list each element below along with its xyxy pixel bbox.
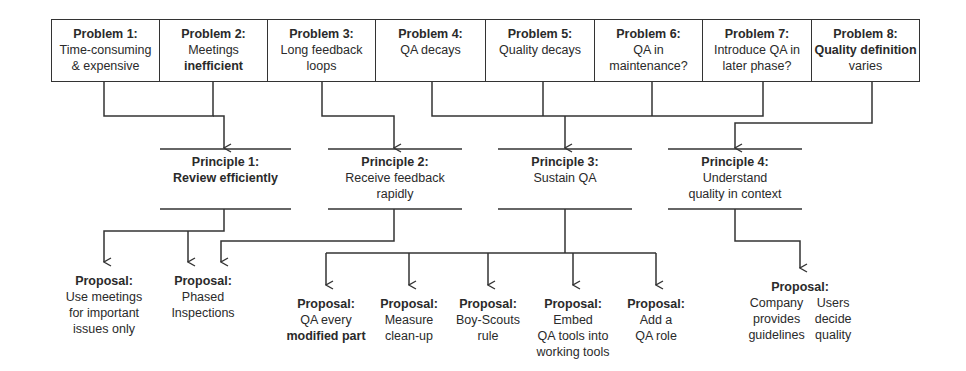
problem-text-bold: inefficient [160,58,267,74]
problem-text: QA in [595,42,702,58]
problem-text: loops [268,58,375,74]
problem-title: Problem 7: [703,26,811,42]
problem-title: Problem 5: [486,26,594,42]
proposal-text: Embed [528,312,618,328]
problem-text: varies [812,58,919,74]
problem-box-8: Problem 8: Quality definition varies [811,19,920,82]
problem-box-1: Problem 1: Time-consuming & expensive [51,19,160,82]
problem-title: Problem 4: [376,26,485,42]
principle-text: Understand [668,170,802,186]
proposal-title: Proposal: [618,296,694,312]
proposal-text: Company [748,295,804,311]
proposal-8: Proposal: Company provides guidelines Us… [736,279,864,343]
proposal-text: provides [748,311,804,327]
proposal-text: Phased [163,289,243,305]
proposal-text: Users [815,295,852,311]
problem-principle-proposal-diagram: Problem 1: Time-consuming & expensive Pr… [0,0,966,371]
problem-box-7: Problem 7: Introduce QA in later phase? [702,19,812,82]
principle-title: Principle 2: [328,154,462,170]
problem-box-5: Problem 5: Quality decays [485,19,595,82]
proposal-4: Proposal: Measure clean-up [369,296,449,344]
problem-title: Problem 6: [595,26,702,42]
principle-title: Principle 3: [498,154,632,170]
principle-text: Receive feedback [328,170,462,186]
proposal-text: working tools [528,344,618,360]
problem-text: Meetings [160,42,267,58]
proposal-title: Proposal: [284,296,368,312]
proposal-right-column: Users decide quality [815,295,852,343]
problem-box-4: Problem 4: QA decays [375,19,486,82]
proposal-text: issues only [64,321,144,337]
proposal-title: Proposal: [448,296,528,312]
proposal-title: Proposal: [64,273,144,289]
proposal-text: Add a [618,312,694,328]
problem-box-2: Problem 2: Meetings inefficient [159,19,268,82]
problem-text-bold: Quality definition [812,42,919,58]
problem-text: Quality decays [486,42,594,58]
proposal-text: Inspections [163,305,243,321]
problem-title: Problem 2: [160,26,267,42]
problem-title: Problem 1: [52,26,159,42]
problem-text: QA decays [376,42,485,58]
principle-title: Principle 1: [160,154,291,170]
principle-3: Principle 3: Sustain QA [498,154,632,186]
proposal-text: QA tools into [528,328,618,344]
problem-box-3: Problem 3: Long feedback loops [267,19,376,82]
principle-text: Review efficiently [160,170,291,186]
problem-title: Problem 3: [268,26,375,42]
problem-text: Long feedback [268,42,375,58]
problem-text: Time-consuming [52,42,159,58]
proposal-text: decide [815,311,852,327]
proposal-left-column: Company provides guidelines [748,295,804,343]
proposal-title: Proposal: [163,273,243,289]
principle-4: Principle 4: Understand quality in conte… [668,154,802,202]
proposal-1: Proposal: Use meetings for important iss… [64,273,144,337]
proposal-text: Measure [369,312,449,328]
principle-title: Principle 4: [668,154,802,170]
proposal-text-bold: modified part [284,328,368,344]
problem-text: maintenance? [595,58,702,74]
proposal-text: guidelines [748,327,804,343]
principle-text: quality in context [668,186,802,202]
proposal-title: Proposal: [528,296,618,312]
problem-title: Problem 8: [812,26,919,42]
problem-text: & expensive [52,58,159,74]
proposal-text: Use meetings [64,289,144,305]
proposal-text: QA role [618,328,694,344]
proposal-text: QA every [284,312,368,328]
proposal-text: quality [815,327,852,343]
proposal-text: for important [64,305,144,321]
principle-1: Principle 1: Review efficiently [160,154,291,186]
proposal-7: Proposal: Add a QA role [618,296,694,344]
proposal-6: Proposal: Embed QA tools into working to… [528,296,618,360]
proposal-text: Boy-Scouts [448,312,528,328]
principle-text: Sustain QA [498,170,632,186]
proposal-5: Proposal: Boy-Scouts rule [448,296,528,344]
proposal-2: Proposal: Phased Inspections [163,273,243,321]
problem-text: later phase? [703,58,811,74]
proposal-title: Proposal: [736,279,864,295]
problem-box-6: Problem 6: QA in maintenance? [594,19,703,82]
principle-text: rapidly [328,186,462,202]
principle-2: Principle 2: Receive feedback rapidly [328,154,462,202]
proposal-text: rule [448,328,528,344]
proposal-text: clean-up [369,328,449,344]
proposal-3: Proposal: QA every modified part [284,296,368,344]
problem-text: Introduce QA in [703,42,811,58]
proposal-title: Proposal: [369,296,449,312]
